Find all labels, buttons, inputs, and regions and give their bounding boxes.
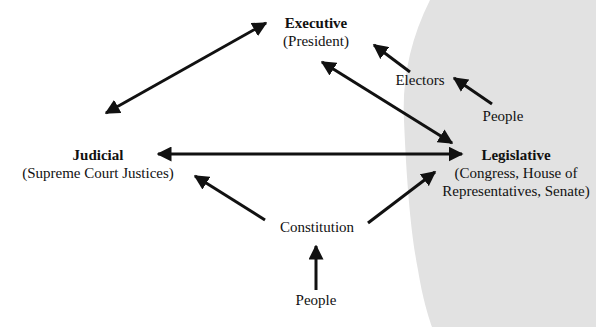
arrow-judicial-executive <box>106 23 266 113</box>
arrow-electors-executive <box>374 45 410 72</box>
judicial-title: Judicial <box>0 146 196 164</box>
executive-subtitle: (President) <box>256 32 376 50</box>
legislative-subtitle-line2: Representatives, Senate) <box>426 182 596 200</box>
legislative-title: Legislative <box>426 146 596 164</box>
arrow-constitution-judicial <box>195 176 265 220</box>
node-legislative: Legislative (Congress, House of Represen… <box>426 146 596 200</box>
judicial-subtitle: (Supreme Court Justices) <box>0 164 196 182</box>
executive-title: Executive <box>256 14 376 32</box>
node-constitution: Constitution <box>262 218 372 236</box>
legislative-subtitle-line1: (Congress, House of <box>426 164 596 182</box>
node-executive: Executive (President) <box>256 14 376 50</box>
node-people-top: People <box>468 107 538 125</box>
node-judicial: Judicial (Supreme Court Justices) <box>0 146 196 182</box>
node-electors: Electors <box>380 71 460 89</box>
node-people-bottom: People <box>281 291 351 309</box>
